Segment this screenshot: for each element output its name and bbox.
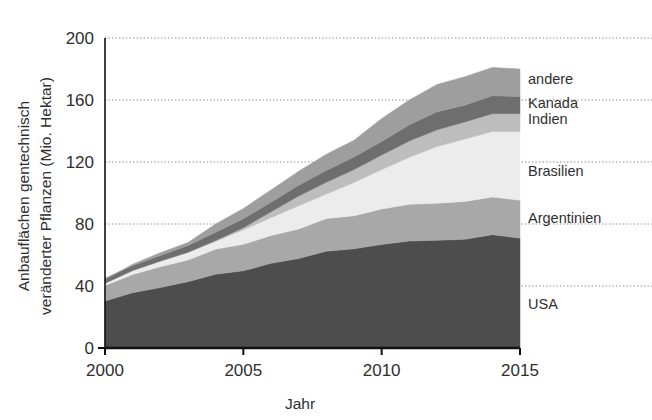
y-axis-title-line-1: Anbauflächen gentechnisch xyxy=(15,101,32,291)
legend-label-kanada: Kanada xyxy=(528,95,579,111)
area-series-group xyxy=(105,67,520,348)
stacked-area-chart: 04080120160200 2000200520102015 andereKa… xyxy=(0,0,652,420)
y-tick-label: 0 xyxy=(85,339,94,358)
x-tick-labels: 2000200520102015 xyxy=(86,361,539,380)
y-tick-label: 160 xyxy=(66,91,94,110)
y-tick-label: 40 xyxy=(75,277,94,296)
y-tick-labels: 04080120160200 xyxy=(66,29,94,358)
y-tick-label: 80 xyxy=(75,215,94,234)
legend-label-andere: andere xyxy=(528,71,573,87)
x-tick-label: 2015 xyxy=(501,361,539,380)
y-axis-title: Anbauflächen gentechnisch veränderter Pf… xyxy=(15,77,54,315)
y-tick-label: 200 xyxy=(66,29,94,48)
y-axis-title-line-2: veränderter Pflanzen (Mio. Hektar) xyxy=(37,77,54,315)
x-tick-label: 2010 xyxy=(363,361,401,380)
x-axis-title: Jahr xyxy=(285,395,315,412)
chart-canvas: 04080120160200 2000200520102015 andereKa… xyxy=(0,0,652,420)
y-tick-label: 120 xyxy=(66,153,94,172)
x-tick-label: 2005 xyxy=(224,361,262,380)
legend-label-usa: USA xyxy=(528,296,558,312)
x-tick-label: 2000 xyxy=(86,361,124,380)
legend-label-brasilien: Brasilien xyxy=(528,163,584,179)
legend-group: andereKanadaIndienBrasilienArgentinienUS… xyxy=(528,71,601,312)
legend-label-indien: Indien xyxy=(528,111,568,127)
legend-label-argentinien: Argentinien xyxy=(528,210,601,226)
